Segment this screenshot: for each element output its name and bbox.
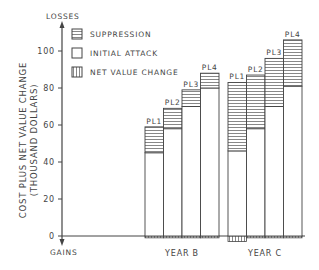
bar-label: PL1 — [229, 72, 245, 81]
suppression-segment — [247, 75, 266, 129]
suppression-segment — [201, 73, 220, 88]
legend-item: SUPPRESSION — [72, 29, 151, 39]
chart: LOSSES GAINS COST PLUS NET VALUE CHANGE … — [0, 0, 319, 270]
initial-attack-segment — [145, 153, 164, 236]
legend: SUPPRESSIONINITIAL ATTACKNET VALUE CHANG… — [72, 29, 178, 77]
net-value-change-segment — [228, 236, 247, 242]
suppression-segment — [265, 58, 284, 106]
initial-attack-segment — [265, 107, 284, 237]
initial-attack-segment — [228, 151, 247, 236]
initial-attack-segment — [247, 129, 266, 236]
bars: PL1PL2PL3PL4PL1PL2PL3PL4 — [145, 30, 302, 242]
suppression-segment — [182, 90, 201, 107]
y-tick-label: 40 — [43, 158, 55, 167]
svg-text:COST PLUS NET VALUE CHANGE: COST PLUS NET VALUE CHANGE — [18, 62, 28, 218]
suppression-segment — [284, 40, 303, 86]
legend-label: INITIAL ATTACK — [90, 49, 158, 58]
legend-swatch — [72, 67, 82, 77]
svg-text:(THOUSAND DOLLARS): (THOUSAND DOLLARS) — [29, 84, 39, 197]
bar-label: PL1 — [146, 117, 162, 126]
bar-label: PL2 — [248, 65, 264, 74]
group-label: YEAR C — [247, 249, 282, 258]
y-tick-label: 20 — [43, 195, 55, 204]
bar-year-b-pl4: PL4 — [201, 63, 220, 238]
y-axis-title: COST PLUS NET VALUE CHANGE — [18, 62, 28, 218]
initial-attack-segment — [201, 88, 220, 236]
legend-label: SUPPRESSION — [90, 30, 151, 39]
group-label: YEAR B — [164, 249, 199, 258]
arrow-down-icon — [60, 239, 65, 246]
y-axis: 020406080100 — [37, 21, 64, 246]
y-tick-label: 80 — [43, 84, 55, 93]
suppression-segment — [228, 82, 247, 150]
bar-year-c-pl3: PL3 — [265, 48, 284, 237]
bar-label: PL3 — [183, 80, 199, 89]
y-tick-label: 100 — [37, 47, 55, 56]
group-labels: YEAR BYEAR C — [164, 249, 282, 258]
bar-label: PL4 — [202, 63, 218, 72]
bar-year-b-pl1: PL1 — [145, 117, 164, 238]
legend-label: NET VALUE CHANGE — [90, 68, 178, 77]
suppression-segment — [164, 108, 183, 128]
initial-attack-segment — [284, 86, 303, 236]
initial-attack-segment — [182, 107, 201, 237]
bar-year-c-pl4: PL4 — [284, 30, 303, 238]
bar-year-c-pl2: PL2 — [247, 65, 266, 238]
arrow-up-icon — [60, 21, 65, 28]
bar-year-b-pl2: PL2 — [164, 98, 183, 238]
bar-year-b-pl3: PL3 — [182, 80, 201, 238]
suppression-segment — [145, 127, 164, 153]
bar-label: PL2 — [165, 98, 181, 107]
y-tick-label: 0 — [49, 232, 55, 241]
legend-swatch — [72, 48, 82, 58]
gains-label: GAINS — [50, 248, 78, 257]
y-tick-label: 60 — [43, 121, 55, 130]
legend-swatch — [72, 29, 82, 39]
y-axis-subtitle: (THOUSAND DOLLARS) — [29, 84, 39, 197]
bar-year-c-pl1: PL1 — [228, 72, 247, 241]
initial-attack-segment — [164, 129, 183, 236]
losses-label: LOSSES — [46, 12, 80, 21]
bar-label: PL3 — [266, 48, 282, 57]
bar-label: PL4 — [285, 30, 301, 39]
legend-item: INITIAL ATTACK — [72, 48, 158, 58]
legend-item: NET VALUE CHANGE — [72, 67, 178, 77]
